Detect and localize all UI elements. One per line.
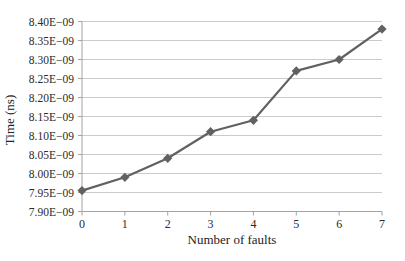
- y-tick-label: 8.10E−09: [29, 130, 74, 142]
- y-tick-label: 8.15E−09: [29, 111, 74, 123]
- y-tick-label: 8.00E−09: [29, 168, 74, 180]
- y-tick-label: 8.25E−09: [29, 73, 74, 85]
- y-tick-label: 8.05E−09: [29, 149, 74, 161]
- series-layer: [77, 25, 386, 196]
- x-tick-label: 7: [379, 217, 385, 231]
- x-tick-label: 4: [250, 217, 256, 231]
- x-tick-label: 3: [208, 217, 214, 231]
- x-tick-label: 5: [293, 217, 299, 231]
- figure: 7.90E−097.95E−098.00E−098.05E−098.10E−09…: [0, 0, 405, 261]
- grid-layer: [82, 22, 382, 193]
- x-axis-title: Number of faults: [188, 232, 277, 247]
- y-tick-label: 8.30E−09: [29, 54, 74, 66]
- series-line: [82, 29, 382, 191]
- diamond-marker: [77, 186, 86, 195]
- diamond-marker: [120, 173, 129, 182]
- axis-layer: [78, 22, 382, 216]
- y-tick-label: 7.90E−09: [29, 206, 74, 218]
- x-tick-label: 1: [122, 217, 128, 231]
- y-tick-label: 8.40E−09: [29, 16, 74, 28]
- line-chart: 7.90E−097.95E−098.00E−098.05E−098.10E−09…: [0, 0, 405, 261]
- x-tick-label: 6: [336, 217, 342, 231]
- y-tick-label: 8.35E−09: [29, 35, 74, 47]
- y-tick-label: 7.95E−09: [29, 187, 74, 199]
- y-tick-label: 8.20E−09: [29, 92, 74, 104]
- x-tick-label: 0: [79, 217, 85, 231]
- x-tick-label: 2: [165, 217, 171, 231]
- y-axis-title: Time (ns): [2, 95, 17, 145]
